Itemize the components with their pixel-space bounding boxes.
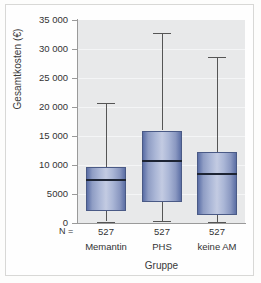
y-axis-tick-label: 30 000: [8, 44, 68, 53]
plot-area: [78, 20, 245, 223]
y-axis-tick-label: 15 000: [8, 131, 68, 140]
y-axis-tick-label: 10 000: [8, 160, 68, 169]
y-axis-tick-label: 25 000: [8, 73, 68, 82]
y-axis-tick: [72, 20, 78, 21]
y-axis-tick: [72, 107, 78, 108]
box: [142, 131, 182, 202]
boxplot-figure: Gesamtkosten (€) 35 00030 00025 00020 00…: [0, 0, 261, 283]
y-axis-tick: [72, 194, 78, 195]
box: [197, 152, 237, 215]
group-label-keine-am: keine AM: [183, 241, 251, 252]
x-axis-line: [78, 223, 246, 224]
y-axis-tick: [72, 223, 78, 224]
whisker-lower: [106, 211, 107, 221]
whisker-cap-upper: [97, 103, 115, 104]
median-line: [142, 160, 182, 162]
y-axis-tick-label: 20 000: [8, 102, 68, 111]
whisker-upper: [106, 103, 107, 167]
whisker-lower: [162, 202, 163, 221]
y-axis-tick: [72, 136, 78, 137]
y-axis-tick: [72, 49, 78, 50]
whisker-cap-upper: [153, 33, 171, 34]
n-prefix-label: N =: [59, 226, 73, 236]
group-count-label: 527: [76, 226, 136, 237]
y-axis-tick-label: 35 000: [8, 15, 68, 24]
median-line: [86, 179, 126, 181]
group-count-label: 527: [132, 226, 192, 237]
median-line: [197, 173, 237, 175]
box: [86, 167, 126, 211]
y-axis-tick: [72, 78, 78, 79]
y-axis-tick-label: 5000: [8, 189, 68, 198]
x-axis-title: Gruppe: [78, 260, 245, 271]
whisker-upper: [217, 57, 218, 153]
whisker-cap-lower: [153, 221, 171, 222]
y-axis-tick: [72, 165, 78, 166]
whisker-upper: [162, 33, 163, 130]
group-count-label: 527: [187, 226, 247, 237]
whisker-cap-upper: [208, 57, 226, 58]
whisker-lower: [217, 215, 218, 222]
